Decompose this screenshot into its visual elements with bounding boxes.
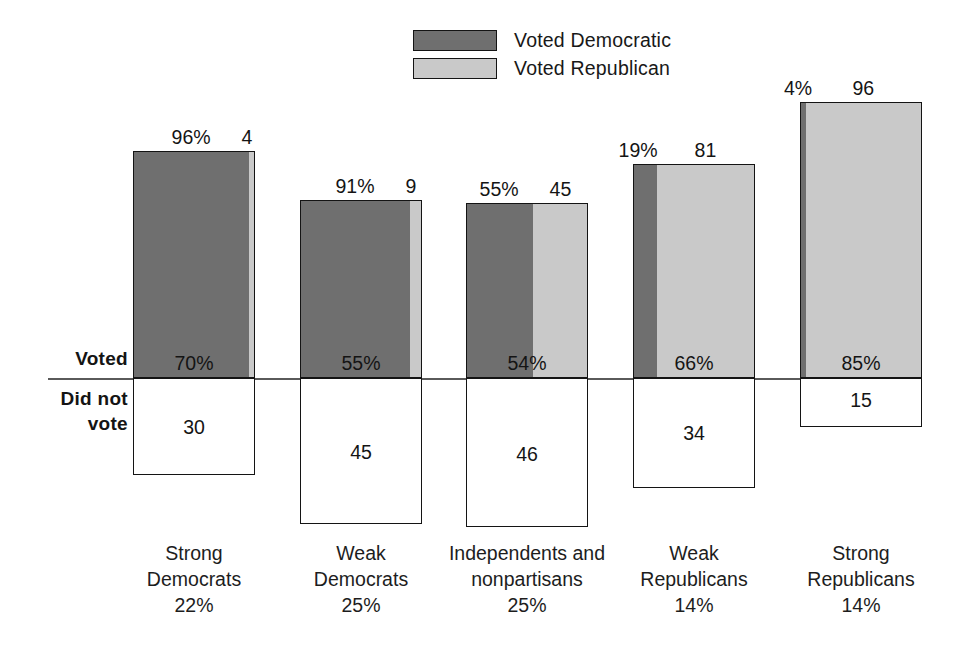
top-label-democratic: 19% — [619, 139, 658, 162]
top-value-labels: 96% 4 — [133, 125, 255, 149]
caption-line-2: Republicans — [599, 566, 789, 592]
caption-line-2: Democrats — [99, 566, 289, 592]
caption-share: 25% — [266, 592, 456, 618]
axis-label-did-not-vote: Did not vote — [0, 386, 128, 448]
segment-voted-republican — [410, 201, 421, 377]
voted-percent-label: 55% — [300, 352, 422, 375]
category-caption: Weak Republicans 14% — [599, 540, 789, 618]
voted-stacked-bar — [800, 102, 922, 378]
top-label-republican: 96 — [852, 77, 874, 100]
top-value-labels: 4% 96 — [800, 76, 922, 100]
did-not-vote-label: 34 — [633, 422, 755, 445]
did-not-vote-label: 45 — [300, 441, 422, 464]
caption-share: 22% — [99, 592, 289, 618]
voted-percent-label: 85% — [800, 352, 922, 375]
segment-voted-democratic — [301, 201, 410, 377]
caption-line-1: Weak — [266, 540, 456, 566]
category-caption: Strong Democrats 22% — [99, 540, 289, 618]
category-caption: Weak Democrats 25% — [266, 540, 456, 618]
axis-label-voted-text: Voted — [75, 348, 128, 370]
caption-line-2: Republicans — [766, 566, 956, 592]
top-value-labels: 91% 9 — [300, 174, 422, 198]
caption-line-1: Strong — [99, 540, 289, 566]
top-label-republican: 9 — [406, 175, 417, 198]
top-label-republican: 4 — [242, 126, 253, 149]
voted-percent-label: 54% — [466, 352, 588, 375]
top-label-democratic: 4% — [784, 77, 812, 100]
top-value-labels: 55% 45 — [466, 177, 588, 201]
caption-share: 14% — [599, 592, 789, 618]
did-not-vote-label: 30 — [133, 416, 255, 439]
segment-voted-republican — [806, 103, 921, 377]
top-label-democratic: 91% — [336, 175, 375, 198]
voted-stacked-bar — [133, 151, 255, 378]
did-not-vote-label: 15 — [800, 389, 922, 412]
did-not-vote-label: 46 — [466, 443, 588, 466]
voted-percent-label: 70% — [133, 352, 255, 375]
top-label-democratic: 96% — [172, 126, 211, 149]
axis-label-voted: Voted — [0, 340, 128, 374]
chart-plot-area: Voted Did not vote 96% 4 70% 30 Strong D… — [0, 0, 961, 652]
top-label-republican: 81 — [695, 139, 717, 162]
voted-percent-label: 66% — [633, 352, 755, 375]
top-label-democratic: 55% — [480, 178, 519, 201]
voted-stacked-bar — [633, 164, 755, 378]
axis-label-did-not-vote-line1: Did not — [0, 386, 128, 411]
caption-line-1: Independents and — [432, 540, 622, 566]
segment-voted-democratic — [134, 152, 249, 377]
caption-line-1: Strong — [766, 540, 956, 566]
caption-line-2: nonpartisans — [432, 566, 622, 592]
caption-line-2: Democrats — [266, 566, 456, 592]
top-label-republican: 45 — [550, 178, 572, 201]
segment-voted-democratic — [467, 204, 533, 377]
caption-line-1: Weak — [599, 540, 789, 566]
category-caption: Strong Republicans 14% — [766, 540, 956, 618]
caption-share: 25% — [432, 592, 622, 618]
top-value-labels: 19% 81 — [633, 138, 755, 162]
segment-voted-democratic — [634, 165, 657, 377]
segment-voted-republican — [533, 204, 587, 377]
category-caption: Independents and nonpartisans 25% — [432, 540, 622, 618]
caption-share: 14% — [766, 592, 956, 618]
segment-voted-republican — [657, 165, 754, 377]
segment-voted-republican — [249, 152, 254, 377]
axis-label-did-not-vote-line2: vote — [0, 411, 128, 436]
